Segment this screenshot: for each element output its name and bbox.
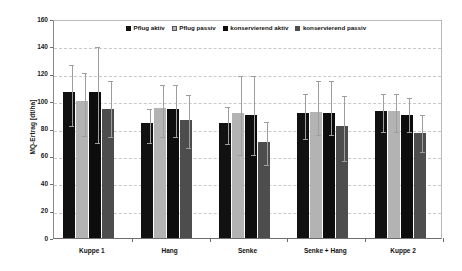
error-bar-cap-upper: [407, 98, 412, 99]
error-bar: [85, 73, 86, 136]
error-bar-cap-upper: [82, 73, 87, 74]
legend-swatch: [223, 26, 228, 31]
error-bar: [331, 81, 332, 134]
bar: [414, 133, 426, 238]
error-bar-cap-upper: [329, 81, 334, 82]
y-tick-label: 80: [26, 126, 48, 133]
error-bar-cap-upper: [225, 107, 230, 108]
legend-item: konservierend aktiv: [223, 25, 289, 31]
bar: [310, 112, 322, 238]
error-bar-cap-lower: [147, 143, 152, 144]
error-bar-cap-lower: [173, 137, 178, 138]
error-bar-cap-upper: [381, 94, 386, 95]
error-bar-cap-lower: [108, 137, 113, 138]
error-bar-cap-lower: [407, 132, 412, 133]
error-bar: [241, 76, 242, 155]
bar-chart-figure: MQ-Ertrag [dt/ha] 020406080100120140160 …: [0, 0, 462, 271]
legend-item: konservierend passiv: [295, 25, 366, 31]
error-bar-cap-upper: [303, 94, 308, 95]
error-bar-cap-lower: [160, 137, 165, 138]
y-tick-label: 40: [26, 181, 48, 188]
x-category-label: Senke: [209, 248, 287, 255]
y-tick-label: 60: [26, 153, 48, 160]
error-bar-cap-lower: [225, 144, 230, 145]
error-bar-cap-upper: [160, 85, 165, 86]
error-bar-cap-lower: [420, 152, 425, 153]
error-bar: [409, 98, 410, 132]
legend-label: Pflug aktiv: [134, 25, 165, 31]
error-bar-cap-lower: [69, 126, 74, 127]
category-separator-tick: [365, 238, 366, 242]
category-separator-tick: [210, 238, 211, 242]
x-category-label: Kuppe 1: [53, 248, 131, 255]
bar: [232, 113, 244, 238]
error-bar-cap-upper: [264, 122, 269, 123]
x-category-label: Kuppe 2: [364, 248, 442, 255]
error-bar: [98, 47, 99, 143]
error-bar: [111, 81, 112, 137]
category-separator-tick: [443, 238, 444, 242]
bar: [167, 109, 179, 238]
bar: [375, 111, 387, 238]
y-tick-label: 160: [26, 17, 48, 24]
error-bar-cap-lower: [381, 132, 386, 133]
error-bar-cap-lower: [394, 132, 399, 133]
legend-label: konservierend aktiv: [230, 25, 288, 31]
bar: [401, 115, 413, 238]
error-bar-cap-upper: [173, 85, 178, 86]
error-bar: [396, 94, 397, 132]
y-tick-label: 0: [26, 236, 48, 243]
error-bar-cap-upper: [147, 109, 152, 110]
error-bar-cap-upper: [394, 94, 399, 95]
bar: [219, 123, 231, 238]
error-bar-cap-lower: [316, 135, 321, 136]
gridline: [54, 76, 441, 77]
bar: [245, 115, 257, 238]
x-category-label: Hang: [131, 248, 209, 255]
bar: [102, 109, 114, 238]
error-bar-cap-lower: [342, 161, 347, 162]
y-tick-label: 140: [26, 44, 48, 51]
error-bar-cap-lower: [238, 155, 243, 156]
legend-swatch: [172, 26, 177, 31]
bar: [336, 126, 348, 238]
y-tick-label: 100: [26, 99, 48, 106]
error-bar-cap-upper: [186, 95, 191, 96]
error-bar: [228, 107, 229, 144]
error-bar: [176, 85, 177, 137]
error-bar: [305, 94, 306, 139]
error-bar-cap-upper: [95, 47, 100, 48]
legend-swatch: [126, 26, 131, 31]
error-bar-cap-upper: [251, 76, 256, 77]
y-tick-mark: [50, 239, 53, 240]
error-bar-cap-upper: [420, 115, 425, 116]
legend-label: konservierend passiv: [303, 25, 366, 31]
error-bar: [344, 96, 345, 160]
error-bar: [189, 95, 190, 148]
error-bar-cap-upper: [238, 76, 243, 77]
error-bar-cap-lower: [82, 136, 87, 137]
legend-swatch: [295, 26, 300, 31]
error-bar-cap-lower: [329, 135, 334, 136]
error-bar-cap-lower: [95, 143, 100, 144]
error-bar-cap-upper: [316, 81, 321, 82]
bar: [323, 113, 335, 238]
error-bar: [422, 115, 423, 152]
legend-label: Pflug passiv: [179, 25, 215, 31]
legend-item: Pflug passiv: [172, 25, 216, 31]
y-tick-label: 120: [26, 71, 48, 78]
category-separator-tick: [287, 238, 288, 242]
legend-item: Pflug aktiv: [126, 25, 165, 31]
error-bar: [383, 94, 384, 132]
error-bar-cap-lower: [264, 165, 269, 166]
error-bar-cap-upper: [108, 81, 113, 82]
bar: [141, 123, 153, 238]
category-separator-tick: [132, 238, 133, 242]
bar: [297, 113, 309, 238]
bar: [154, 108, 166, 238]
x-category-label: Senke + Hang: [286, 248, 364, 255]
plot-area: [53, 20, 442, 239]
bar: [76, 101, 88, 238]
bar: [180, 120, 192, 238]
y-tick-label: 20: [26, 208, 48, 215]
